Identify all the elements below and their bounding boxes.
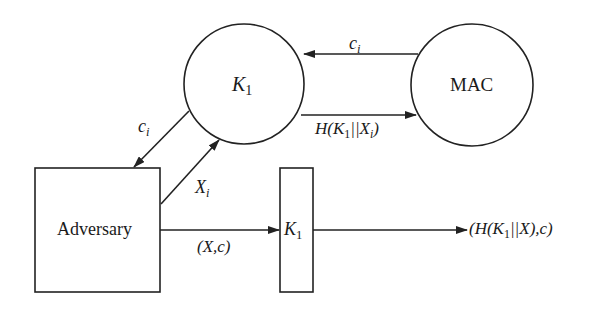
k1-circle-label: K1 xyxy=(232,74,252,94)
diagram-canvas xyxy=(0,0,608,310)
edge-label-adversary-to-k1box: (X,c) xyxy=(197,238,231,255)
adversary-box-label: Adversary xyxy=(57,220,132,238)
edge-label-adversary-to-k1: Xi xyxy=(195,178,210,196)
k1-box-label: K1 xyxy=(284,220,302,238)
arrow-adversary-to-k1 xyxy=(161,140,219,204)
edge-label-k1-to-adversary: ci xyxy=(138,117,150,135)
edge-label-k1-to-mac: H(K1||Xi) xyxy=(315,120,379,137)
edge-label-mac-to-k1: ci xyxy=(349,34,361,52)
mac-circle-label: MAC xyxy=(450,75,493,94)
output-label: (H(K1||X),c) xyxy=(469,220,553,237)
